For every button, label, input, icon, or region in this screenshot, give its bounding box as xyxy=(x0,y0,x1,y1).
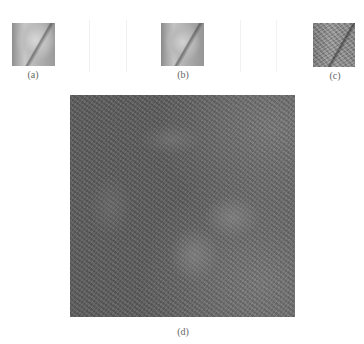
divider-line xyxy=(89,20,90,72)
caption-d: (d) xyxy=(163,326,203,337)
image-d xyxy=(70,95,295,317)
divider-line xyxy=(240,20,241,72)
divider-line xyxy=(276,20,277,72)
caption-a: (a) xyxy=(13,69,53,80)
divider-line xyxy=(126,20,127,72)
caption-c: (c) xyxy=(315,70,355,81)
image-a xyxy=(12,23,55,66)
caption-b: (b) xyxy=(163,69,203,80)
image-b xyxy=(161,23,204,66)
image-c xyxy=(313,23,355,67)
